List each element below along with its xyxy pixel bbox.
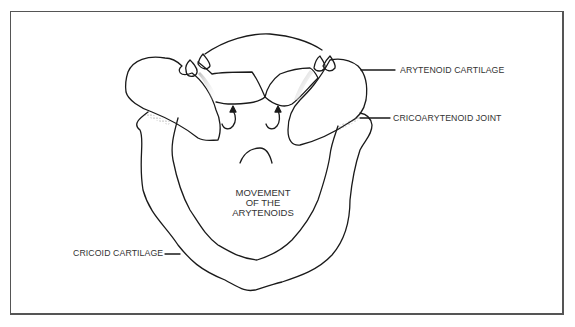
right-arrow-head (275, 106, 281, 112)
left-medial-shading (198, 72, 218, 100)
right-arytenoid-outer (288, 59, 367, 145)
arytenoid-cartilage-label: ARYTENOID CARTILAGE (400, 64, 504, 75)
cricoid-cartilage-label: CRICOID CARTILAGE (73, 247, 163, 258)
right-joint-stipple (338, 116, 360, 130)
larynx-illustration (0, 0, 575, 327)
caption-line-3: ARYTENOIDS (228, 208, 298, 218)
cricoid-lamina-arch (205, 34, 322, 54)
cricoarytenoid-joint-label: CRICOARYTENOID JOINT (393, 112, 502, 123)
right-corniculate (314, 56, 325, 71)
left-arrow-head (230, 106, 236, 112)
movement-caption: MOVEMENT OF THE ARYTENOIDS (228, 188, 298, 218)
left-movement-arrow (222, 110, 235, 129)
movement-caret (240, 148, 272, 163)
left-arytenoid-outer (126, 57, 221, 140)
right-movement-arrow (266, 110, 279, 129)
